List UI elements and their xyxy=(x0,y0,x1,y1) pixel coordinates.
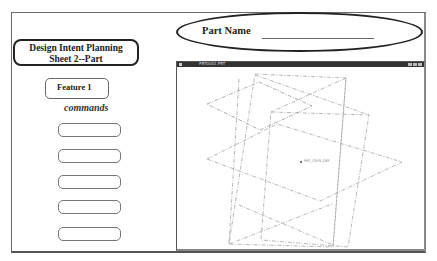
part-name-label: Part Name xyxy=(202,25,251,36)
cad-viewport-window[interactable]: PRT0001.PRT xyxy=(176,61,426,251)
sheet-title-line1: Design Intent Planning xyxy=(15,43,137,54)
feature-label: Feature 1 xyxy=(57,82,92,92)
part-name-field[interactable] xyxy=(262,38,374,39)
feature-box[interactable]: Feature 1 xyxy=(45,78,109,99)
plane-edge xyxy=(255,75,369,115)
command-slot-3[interactable] xyxy=(58,175,121,189)
coordinate-system-icon xyxy=(300,161,302,163)
csys-label: PRT_CSYS_DEF xyxy=(304,159,330,163)
sheet-title: Design Intent Planning Sheet 2--Part xyxy=(13,39,139,66)
viewport-title: PRT0001.PRT xyxy=(199,61,225,66)
right-datum-plane-a xyxy=(261,112,369,247)
command-slot-4[interactable] xyxy=(58,200,121,214)
datum-planes-canvas[interactable]: PRT_CSYS_DEF xyxy=(177,67,425,250)
command-slot-5[interactable] xyxy=(58,227,121,241)
minimize-icon[interactable] xyxy=(408,63,412,66)
command-slot-2[interactable] xyxy=(58,149,121,163)
close-icon[interactable] xyxy=(418,63,422,66)
command-slot-1[interactable] xyxy=(58,123,121,137)
maximize-icon[interactable] xyxy=(413,63,417,66)
sheet-title-line2: Sheet 2--Part xyxy=(15,54,137,65)
commands-label: commands xyxy=(64,102,108,113)
window-menu-icon[interactable] xyxy=(179,63,182,66)
